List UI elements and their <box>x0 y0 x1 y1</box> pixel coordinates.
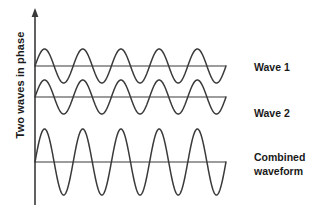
series-label-combined-line-1: Combined <box>254 150 305 164</box>
y-axis-arrowhead <box>32 8 39 17</box>
series-label-combined-waveform: Combined waveform <box>254 150 305 178</box>
series-label-wave-1: Wave 1 <box>254 60 290 74</box>
series-label-combined-line-2: waveform <box>254 164 305 178</box>
wave-series-group <box>35 49 226 195</box>
y-axis <box>32 8 39 205</box>
waveform-figure: Two waves in phase Wave 1 Wave 2 Combine… <box>0 0 318 212</box>
y-axis-label: Two waves in phase <box>14 32 26 139</box>
series-label-wave-2: Wave 2 <box>254 106 290 120</box>
